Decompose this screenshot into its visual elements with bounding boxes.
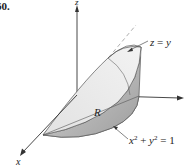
eq-sign: = — [157, 36, 163, 48]
cyl-x-exp: 2 — [134, 134, 138, 142]
z-axis-label: z — [75, 0, 79, 7]
cyl-rhs: 1 — [169, 134, 175, 146]
cylinder-equation-label: x2 + y2 = 1 — [129, 135, 175, 146]
cyl-eq: = — [160, 134, 166, 146]
region-label: R — [94, 107, 101, 118]
figure-number: 60. — [0, 1, 10, 12]
cyl-y-exp: 2 — [154, 134, 158, 142]
cyl-plus: + — [140, 134, 146, 146]
x-axis-label: x — [16, 157, 20, 167]
eq-rhs: y — [166, 36, 171, 48]
eq-lhs: z — [150, 36, 154, 48]
z-axis — [75, 5, 79, 95]
leader-cylinder — [113, 126, 128, 139]
surface-equation-label: z = y — [150, 37, 171, 48]
